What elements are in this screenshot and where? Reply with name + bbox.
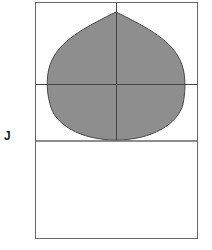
- diagram-canvas: [0, 0, 212, 250]
- figure-label: J: [4, 129, 11, 143]
